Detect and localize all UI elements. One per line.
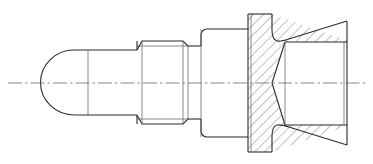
skirt-bottom-hatch-fill — [268, 78, 354, 160]
skirt-bottom-section — [268, 78, 354, 160]
nose-cylinder-outline — [88, 50, 137, 115]
section-hatch-group — [244, 8, 354, 160]
skirt-top-hatch-fill — [268, 8, 354, 90]
threaded-section-outline — [137, 41, 188, 124]
skirt-top-section — [268, 8, 354, 90]
body-shoulder-bottom-outline — [201, 119, 248, 137]
body-shoulder-top-outline — [201, 29, 248, 46]
technical-drawing-canvas — [0, 0, 373, 164]
drawing-svg — [0, 0, 373, 164]
thread-relief-outline — [188, 46, 201, 119]
spherical-nose-outline — [41, 50, 88, 115]
